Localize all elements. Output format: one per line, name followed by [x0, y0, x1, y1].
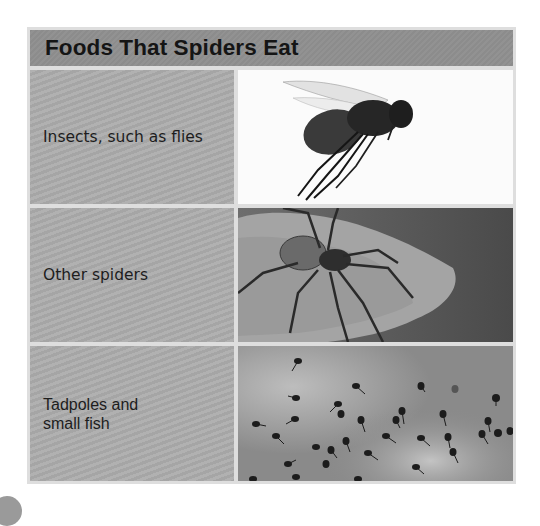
table-row: Tadpoles and small fish	[30, 346, 513, 481]
row-label-cell: Other spiders	[30, 208, 234, 342]
table-title: Foods That Spiders Eat	[45, 34, 298, 62]
row-label-line1: Tadpoles and	[43, 396, 138, 413]
row-label-cell: Tadpoles and small fish	[30, 346, 234, 481]
table-row: Other spiders	[30, 208, 513, 342]
row-label: Other spiders	[43, 265, 148, 285]
row-label: Insects, such as flies	[43, 127, 203, 147]
row-label-line2: small fish	[43, 415, 110, 432]
spider-on-leaf-photo	[238, 208, 513, 342]
foods-table: Foods That Spiders Eat Insects, such as …	[27, 27, 516, 484]
table-row: Insects, such as flies	[30, 70, 513, 204]
page-corner-circle	[0, 496, 22, 526]
row-label-cell: Insects, such as flies	[30, 70, 234, 204]
fly-photo	[238, 70, 513, 204]
row-label: Tadpoles and small fish	[43, 395, 138, 433]
table-header: Foods That Spiders Eat	[30, 30, 513, 66]
tadpoles-photo	[238, 346, 513, 481]
